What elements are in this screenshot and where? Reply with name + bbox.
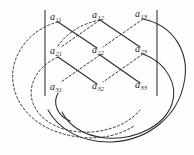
solid-diagonal-6 [56, 93, 70, 121]
entry-subscript: 21 [55, 50, 62, 57]
sarrus-diagram-svg [0, 0, 194, 155]
matrix-entry-a23: a23 [135, 44, 147, 54]
entry-subscript: 12 [97, 14, 104, 21]
dashed-diagonal-5 [31, 57, 140, 132]
matrix-entry-a32: a32 [92, 81, 104, 91]
entry-subscript: 13 [140, 13, 147, 20]
entry-subscript: 32 [97, 85, 104, 92]
entry-subscript: 33 [140, 84, 147, 91]
dashed-diagonal-4 [13, 22, 134, 138]
matrix-entry-a33: a33 [135, 80, 147, 90]
dashed-diagonal-2 [103, 54, 143, 82]
entry-subscript: 31 [55, 86, 62, 93]
dashed-diagonal-1 [61, 20, 100, 47]
determinant-diagram-figure: a11a12a13a21a22a23a31a32a33 [0, 0, 194, 155]
entry-subscript: 23 [140, 48, 147, 55]
dashed-diagonal-lines [13, 19, 143, 138]
matrix-entry-a31: a31 [50, 82, 62, 92]
matrix-entry-a12: a12 [92, 10, 104, 20]
matrix-entry-a11: a11 [50, 12, 61, 22]
matrix-entry-a13: a13 [135, 9, 147, 19]
entry-subscript: 11 [55, 16, 61, 23]
solid-diagonal-1 [100, 20, 140, 47]
solid-diagonal-3 [100, 55, 140, 83]
matrix-entry-a22: a22 [92, 45, 104, 55]
matrix-entry-a21: a21 [50, 46, 62, 56]
dashed-diagonal-6 [58, 20, 100, 46]
entry-subscript: 22 [97, 49, 104, 56]
dashed-diagonal-3 [61, 55, 100, 82]
